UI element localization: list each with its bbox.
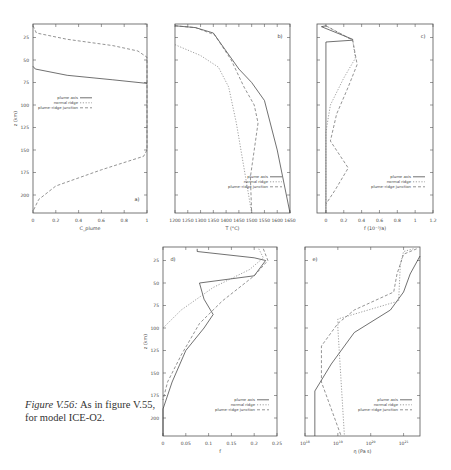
- x-tick-label: 0: [162, 441, 165, 446]
- legend: plume axisnormal ridgeplume–ridge juncti…: [371, 174, 425, 189]
- x-tick-label: 1250: [182, 218, 194, 223]
- panel-label: c): [421, 33, 426, 39]
- x-axis-label: f: [219, 449, 221, 454]
- legend-entry: plume–ridge junction: [38, 105, 79, 110]
- x-tick-label: 1020: [366, 440, 376, 446]
- legend: plume axisnormal ridgeplume–ridge juncti…: [215, 397, 269, 412]
- x-tick-label: 1200: [169, 218, 181, 223]
- y-tick-label: 125: [20, 125, 29, 130]
- panel-label: a): [134, 196, 139, 202]
- series-line: [163, 249, 268, 400]
- legend: plume axisnormal ridgeplume–ridge juncti…: [38, 95, 92, 110]
- x-tick-label: 0.4: [358, 218, 365, 223]
- y-tick-label: 175: [20, 170, 29, 175]
- x-tick-label: 0: [32, 218, 35, 223]
- y-tick-label: 125: [150, 348, 159, 353]
- y-tick-label: 75: [23, 80, 29, 85]
- x-tick-label: 1650: [284, 218, 296, 223]
- series-line: [321, 26, 352, 213]
- series-line: [33, 66, 147, 83]
- y-tick-label: 200: [20, 193, 29, 198]
- x-tick-label: 0.6: [98, 218, 105, 223]
- x-tick-label: 1: [414, 218, 417, 223]
- x-tick-label: 1021: [399, 440, 409, 446]
- y-tick-label: 25: [23, 35, 29, 40]
- x-tick-label: 0.15: [226, 441, 236, 446]
- x-tick-label: 0.2: [251, 441, 258, 446]
- x-tick-label: 1400: [220, 218, 232, 223]
- panel-label: b): [277, 33, 282, 39]
- legend-entry: plume–ridge junction: [371, 184, 412, 189]
- x-tick-label: 0.2: [340, 218, 347, 223]
- panel-label: d): [170, 256, 175, 262]
- panel-label: e): [312, 256, 317, 262]
- x-axis-label: C_plume: [80, 226, 101, 232]
- x-tick-label: 1: [146, 218, 149, 223]
- x-tick-label: 1018: [300, 440, 310, 446]
- x-tick-label: 0.25: [272, 441, 282, 446]
- series-line: [326, 26, 355, 213]
- x-axis-label: T (°C): [225, 226, 240, 231]
- y-axis-label: z (km): [13, 111, 18, 126]
- y-tick-label: 50: [23, 58, 29, 63]
- panel-c: 00.20.40.60.811.2f (10⁻³/a)c)plume axisn…: [317, 24, 437, 231]
- x-tick-label: 0.2: [52, 218, 59, 223]
- panel-b: 1200125013001350140014501500155016001650…: [169, 24, 296, 231]
- x-axis-label: η (Pa s): [354, 449, 372, 454]
- panel-d: 00.050.10.150.20.25f25507510012515017520…: [143, 247, 282, 454]
- x-tick-label: 0.8: [394, 218, 401, 223]
- y-tick-label: 50: [153, 281, 159, 286]
- x-tick-label: 0.05: [181, 441, 191, 446]
- x-tick-label: 0.4: [75, 218, 82, 223]
- x-tick-label: 0.8: [121, 218, 128, 223]
- legend-entry: plume–ridge junction: [215, 407, 256, 412]
- x-tick-label: 1300: [195, 218, 207, 223]
- y-tick-label: 150: [150, 371, 159, 376]
- panel-e: 1018101910201021η (Pa s)e)plume axisnorm…: [300, 247, 420, 454]
- legend: plume axisnormal ridgeplume–ridge juncti…: [358, 397, 412, 412]
- series-line: [326, 26, 357, 204]
- x-tick-label: 0: [324, 218, 327, 223]
- x-tick-label: 1500: [246, 218, 258, 223]
- y-tick-label: 100: [150, 326, 159, 331]
- figure-caption: Figure V.56: As in figure V.55, for mode…: [25, 398, 155, 424]
- plot-frame: [33, 24, 147, 213]
- x-tick-label: 1600: [271, 218, 283, 223]
- caption-label: Figure V.56:: [25, 399, 78, 410]
- legend-entry: plume–ridge junction: [358, 407, 399, 412]
- y-tick-label: 100: [20, 103, 29, 108]
- y-axis-label: z (km): [143, 334, 148, 349]
- x-tick-label: 1550: [259, 218, 271, 223]
- panel-a: 00.20.40.60.81C_plume2550751001251501752…: [13, 24, 149, 232]
- x-tick-label: 1350: [208, 218, 220, 223]
- y-tick-label: 75: [153, 303, 159, 308]
- series-line: [163, 249, 263, 328]
- y-tick-label: 150: [20, 148, 29, 153]
- x-tick-label: 1450: [233, 218, 245, 223]
- x-axis-label: f (10⁻³/a): [364, 226, 386, 231]
- legend: plume axisnormal ridgeplume–ridge juncti…: [228, 174, 282, 189]
- x-tick-label: 1019: [333, 440, 343, 446]
- x-tick-label: 0.1: [205, 441, 212, 446]
- legend-entry: plume–ridge junction: [228, 184, 269, 189]
- x-tick-label: 1.2: [429, 218, 436, 223]
- x-tick-label: 0.6: [376, 218, 383, 223]
- series-line: [33, 26, 147, 211]
- y-tick-label: 25: [153, 258, 159, 263]
